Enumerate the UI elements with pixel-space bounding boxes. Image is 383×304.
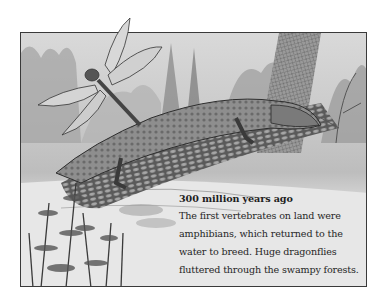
dragonfly-illustration [0, 0, 383, 304]
dragonfly [38, 18, 162, 135]
